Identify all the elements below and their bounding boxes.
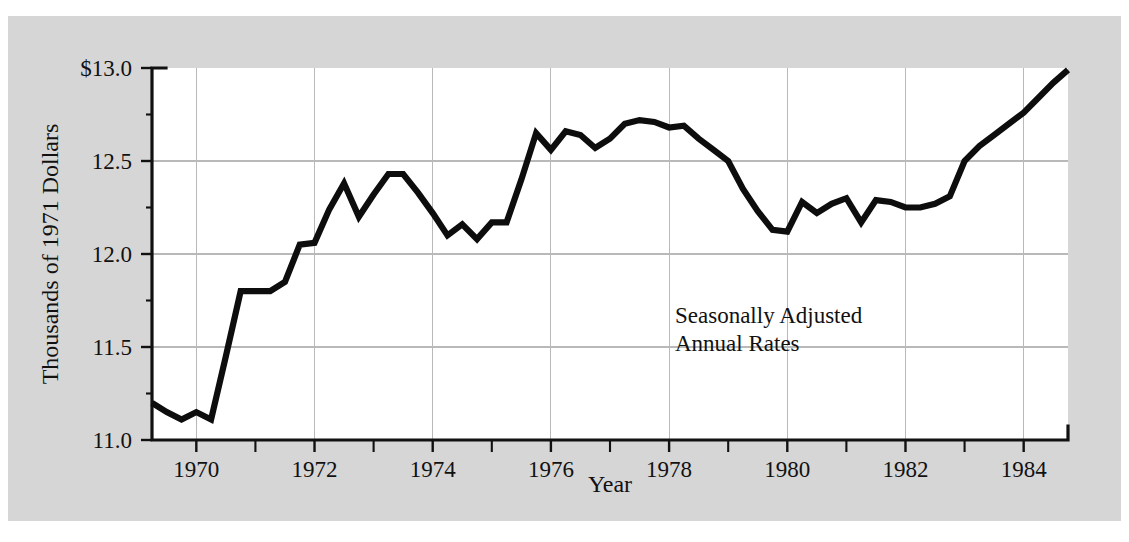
y-tick-label: 12.5 — [92, 149, 132, 174]
y-tick-label: $13.0 — [80, 56, 132, 81]
annotation-line-2: Annual Rates — [675, 331, 800, 356]
x-tick-label: 1980 — [764, 457, 810, 482]
y-axis-title: Thousands of 1971 Dollars — [37, 124, 63, 385]
chart-svg: 11.011.512.012.5$13.0 197019721974197619… — [0, 0, 1129, 542]
x-tick-label: 1978 — [646, 457, 692, 482]
line-chart: 11.011.512.012.5$13.0 197019721974197619… — [0, 0, 1129, 542]
x-tick-label: 1974 — [410, 457, 457, 482]
y-tick-labels-group: 11.011.512.012.5$13.0 — [80, 56, 132, 453]
y-tick-label: 12.0 — [92, 242, 132, 267]
x-tick-label: 1972 — [292, 457, 338, 482]
x-tick-label: 1984 — [1001, 457, 1048, 482]
figure-canvas: 11.011.512.012.5$13.0 197019721974197619… — [0, 0, 1129, 542]
x-tick-label: 1976 — [528, 457, 574, 482]
y-tick-label: 11.0 — [93, 428, 132, 453]
x-axis-title: Year — [588, 471, 632, 497]
y-tick-label: 11.5 — [93, 335, 132, 360]
x-tick-label: 1970 — [173, 457, 219, 482]
annotation-line-1: Seasonally Adjusted — [675, 303, 863, 328]
x-tick-label: 1982 — [882, 457, 928, 482]
